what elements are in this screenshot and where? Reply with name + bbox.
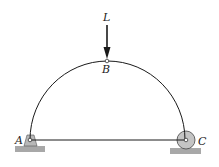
label-c: C xyxy=(198,135,207,148)
pin-c xyxy=(184,138,188,142)
pin-a xyxy=(28,138,32,142)
arch-diagram: L B A C xyxy=(0,0,219,167)
label-load: L xyxy=(102,11,110,24)
label-b: B xyxy=(101,63,110,76)
load-arrow-head-icon xyxy=(104,47,111,59)
label-a: A xyxy=(14,134,23,147)
